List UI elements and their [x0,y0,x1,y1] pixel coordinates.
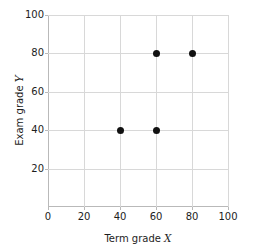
x-tick-mark [48,207,49,210]
y-axis-line [48,15,49,207]
gridline-horizontal [48,15,228,16]
x-tick-label: 80 [172,212,212,222]
y-tick-mark [45,15,48,16]
x-tick-label: 0 [28,212,68,222]
gridline-horizontal [48,130,228,131]
x-tick-label: 40 [100,212,140,222]
gridline-vertical [120,15,121,207]
x-tick-mark [156,207,157,210]
y-tick-mark [45,53,48,54]
gridline-vertical [192,15,193,207]
x-tick-mark [84,207,85,210]
gridline-horizontal [48,53,228,54]
y-axis-title-variable: Y [13,75,25,82]
x-tick-label: 100 [208,212,248,222]
plot-area [48,15,228,207]
gridline-vertical [228,15,229,207]
gridline-vertical [84,15,85,207]
data-point [189,50,196,57]
y-tick-label: 100 [14,10,44,20]
y-tick-mark [45,169,48,170]
y-tick-mark [45,92,48,93]
x-tick-label: 20 [64,212,104,222]
data-point [153,50,160,57]
y-axis-title: Exam grade Y [13,56,26,166]
x-axis-title-text: Term grade [104,233,161,244]
data-point [153,127,160,134]
x-axis-title: Term grade X [48,232,228,245]
scatter-chart-figure: 20406080100 020406080100 Term grade X Ex… [0,0,261,252]
x-tick-mark [120,207,121,210]
gridline-vertical [156,15,157,207]
y-tick-mark [45,130,48,131]
y-axis-title-text: Exam grade [14,85,25,145]
x-axis-line [48,206,228,207]
x-tick-mark [192,207,193,210]
x-tick-label: 60 [136,212,176,222]
data-point [117,127,124,134]
gridline-horizontal [48,169,228,170]
gridline-horizontal [48,92,228,93]
x-tick-mark [228,207,229,210]
x-axis-title-variable: X [164,232,171,244]
